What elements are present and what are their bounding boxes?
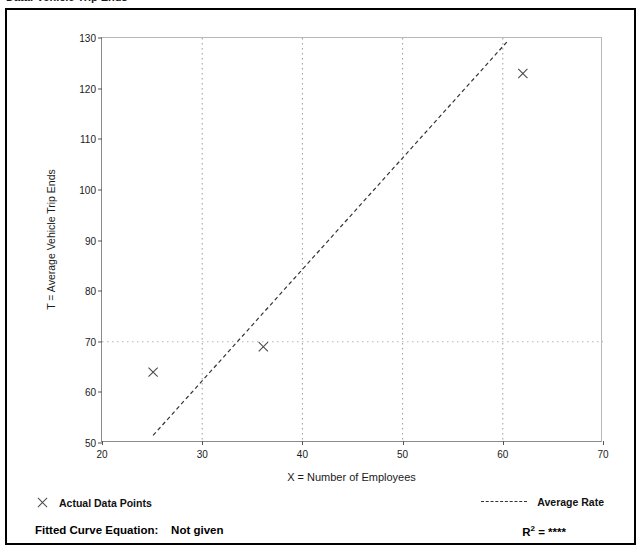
fitted-curve-equation: Fitted Curve Equation: Not given: [35, 524, 224, 536]
x-axis-tick-label: 50: [397, 449, 408, 460]
y-axis-tick-label: 60: [85, 387, 96, 398]
y-axis-tick-mark: [98, 240, 102, 241]
y-axis-tick-mark: [98, 189, 102, 190]
figure-caption-cut: Data: Vehicle Trip Ends: [6, 0, 128, 3]
r-squared-equals: =: [535, 526, 548, 538]
figure-frame: T = Average Vehicle Trip Ends 5060708090…: [5, 8, 636, 545]
y-axis-tick-label: 90: [85, 235, 96, 246]
fitted-curve-equation-label: Fitted Curve Equation:: [35, 524, 158, 536]
y-axis-tick-mark: [98, 291, 102, 292]
y-axis-tick-mark: [98, 392, 102, 393]
y-axis-title: T = Average Vehicle Trip Ends: [43, 37, 59, 442]
y-axis-tick-label: 110: [80, 134, 96, 145]
y-axis-tick-label: 50: [85, 438, 96, 449]
dashed-line-icon: [481, 501, 527, 503]
legend-label-average-rate: Average Rate: [537, 496, 604, 508]
x-axis-title: X = Number of Employees: [101, 471, 602, 483]
legend: Actual Data Points Average Rate: [7, 494, 638, 520]
y-axis-tick-label: 120: [79, 83, 96, 94]
plot-canvas: [102, 38, 603, 443]
r-squared-stars: ****: [548, 526, 566, 538]
cut-off-title-strip: Data: Vehicle Trip Ends: [0, 0, 643, 7]
x-axis-tick-mark: [102, 441, 103, 445]
y-axis-tick-label: 80: [85, 286, 96, 297]
y-axis-tick-mark: [98, 139, 102, 140]
legend-item-actual-data-points: Actual Data Points: [35, 496, 152, 509]
x-axis-tick-label: 30: [197, 449, 208, 460]
x-axis-tick-label: 40: [297, 449, 308, 460]
plot-area: 5060708090100110120130203040506070: [101, 37, 602, 442]
x-axis-tick-mark: [503, 441, 504, 445]
x-axis-tick-mark: [603, 441, 604, 445]
y-axis-tick-mark: [98, 38, 102, 39]
x-axis-tick-label: 60: [497, 449, 508, 460]
x-axis-tick-label: 20: [96, 449, 107, 460]
x-axis-tick-mark: [403, 441, 404, 445]
y-axis-tick-label: 100: [79, 184, 96, 195]
r-squared-value: R2 = ****: [522, 524, 566, 538]
footer: Fitted Curve Equation: Not given R2 = **…: [7, 522, 638, 546]
y-axis-tick-label: 130: [79, 33, 96, 44]
y-axis-tick-mark: [98, 341, 102, 342]
y-axis-tick-mark: [98, 88, 102, 89]
x-axis-tick-mark: [202, 441, 203, 445]
legend-item-average-rate: Average Rate: [481, 496, 604, 508]
y-axis-tick-label: 70: [85, 336, 96, 347]
x-axis-tick-mark: [302, 441, 303, 445]
fitted-curve-equation-value: Not given: [171, 524, 223, 536]
x-axis-tick-label: 70: [597, 449, 608, 460]
r-squared-label: R: [522, 526, 530, 538]
legend-label-actual-data-points: Actual Data Points: [59, 497, 152, 509]
x-marker-icon: [35, 496, 48, 509]
